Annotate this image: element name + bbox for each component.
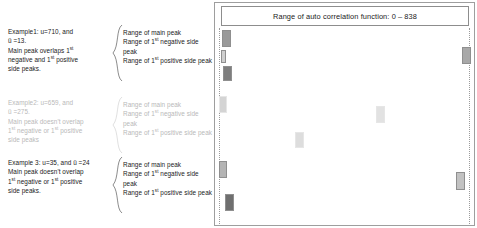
bar-example-1 — [221, 50, 226, 63]
example-1-line-5: side peaks. — [8, 64, 112, 73]
bar-example-2 — [376, 106, 385, 123]
example-1-description: Example1: u=710, and ü =13. Main peak ov… — [8, 27, 112, 73]
example-2-description: Example2: u=659, and ü =275. Main peak d… — [8, 98, 112, 144]
bar-example-1 — [223, 66, 232, 81]
bar-example-2 — [295, 132, 304, 148]
bar-example-3 — [219, 161, 227, 178]
range-label-negative-peak-1: Range of 1st negative side peak — [123, 37, 213, 56]
autocorrelation-panel — [214, 2, 475, 226]
ranges-example-3: Range of main peak Range of 1st negative… — [123, 160, 213, 197]
brace-example-1 — [110, 24, 123, 82]
example-3-line-1: Example 3: u=35, and ü =24 — [8, 158, 112, 167]
example-1-line-4: negative and 1st positive — [8, 55, 112, 64]
example-1-line-2: ü =13. — [8, 36, 112, 45]
bar-example-1 — [222, 30, 231, 47]
range-label-main-peak-3: Range of main peak — [123, 160, 213, 169]
bar-example-2 — [219, 96, 227, 113]
bar-example-1 — [462, 47, 471, 64]
range-label-main-peak-1: Range of main peak — [123, 28, 213, 37]
example-2-line-5: side peaks — [8, 135, 112, 144]
brace-example-2 — [110, 96, 123, 154]
panel-header: Range of auto correlation function: 0 – … — [221, 6, 469, 26]
range-label-positive-peak-1: Range of 1st positive side peak — [123, 56, 213, 65]
example-1-line-1: Example1: u=710, and — [8, 27, 112, 36]
example-2-line-3: Main peak doesn't overlap — [8, 117, 112, 126]
bar-example-3 — [456, 172, 465, 190]
example-2-line-4: 1st negative or 1st positive — [8, 126, 112, 135]
example-3-line-2: Main peak doesn't overlap — [8, 167, 112, 176]
example-3-line-4: side peaks. — [8, 186, 112, 195]
ranges-example-2: Range of main peak Range of 1st negative… — [123, 100, 213, 137]
example-3-description: Example 3: u=35, and ü =24 Main peak doe… — [8, 158, 112, 195]
example-3-line-3: 1st negative or 1st positive — [8, 177, 112, 186]
axis-guide-left — [219, 28, 220, 224]
example-1-line-3: Main peak overlaps 1st — [8, 46, 112, 55]
range-label-negative-peak-3: Range of 1st negative side peak — [123, 169, 213, 188]
figure-root: Example1: u=710, and ü =13. Main peak ov… — [0, 0, 477, 228]
range-label-negative-peak-2: Range of 1st negative side peak — [123, 109, 213, 128]
example-2-line-1: Example2: u=659, and — [8, 98, 112, 107]
brace-example-3 — [110, 156, 123, 214]
range-label-main-peak-2: Range of main peak — [123, 100, 213, 109]
bar-example-3 — [225, 194, 234, 211]
range-label-positive-peak-2: Range of 1st positive side peak — [123, 128, 213, 137]
ranges-example-1: Range of main peak Range of 1st negative… — [123, 28, 213, 65]
range-label-positive-peak-3: Range of 1st positive side peak — [123, 188, 213, 197]
example-2-line-2: ü =275. — [8, 107, 112, 116]
